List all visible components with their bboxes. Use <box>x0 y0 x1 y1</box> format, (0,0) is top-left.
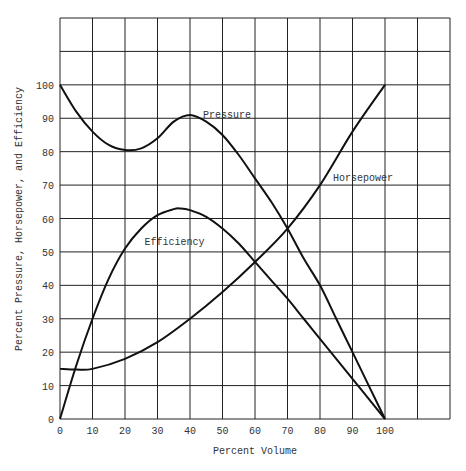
grid-lines <box>60 18 450 419</box>
x-tick-label: 40 <box>184 426 196 437</box>
y-tick-label: 0 <box>48 415 54 426</box>
pressure-label: Pressure <box>203 110 251 121</box>
efficiency-label: Efficiency <box>145 237 205 248</box>
y-tick-label: 30 <box>42 315 54 326</box>
x-tick-label: 50 <box>216 426 228 437</box>
y-tick-label: 20 <box>42 348 54 359</box>
y-axis-ticks: 0102030405060708090100 <box>36 81 54 426</box>
x-tick-label: 100 <box>376 426 394 437</box>
curve-labels: PressureEfficiencyHorsepower <box>145 110 394 248</box>
y-tick-label: 40 <box>42 281 54 292</box>
x-tick-label: 10 <box>86 426 98 437</box>
x-tick-label: 20 <box>119 426 131 437</box>
y-tick-label: 60 <box>42 215 54 226</box>
x-tick-label: 70 <box>281 426 293 437</box>
y-tick-label: 50 <box>42 248 54 259</box>
y-tick-label: 90 <box>42 114 54 125</box>
y-tick-label: 100 <box>36 81 54 92</box>
x-tick-label: 0 <box>57 426 63 437</box>
y-tick-label: 10 <box>42 382 54 393</box>
x-tick-label: 60 <box>249 426 261 437</box>
y-tick-label: 70 <box>42 181 54 192</box>
x-tick-label: 30 <box>151 426 163 437</box>
x-axis-ticks: 0102030405060708090100 <box>57 426 394 437</box>
x-tick-label: 90 <box>346 426 358 437</box>
horsepower-label: Horsepower <box>333 173 393 184</box>
y-tick-label: 80 <box>42 148 54 159</box>
x-axis-label: Percent Volume <box>213 446 297 457</box>
performance-chart: 0102030405060708090100 01020304050607080… <box>0 0 466 471</box>
y-axis-label: Percent Pressure, Horsepower, and Effici… <box>14 87 25 351</box>
x-tick-label: 80 <box>314 426 326 437</box>
